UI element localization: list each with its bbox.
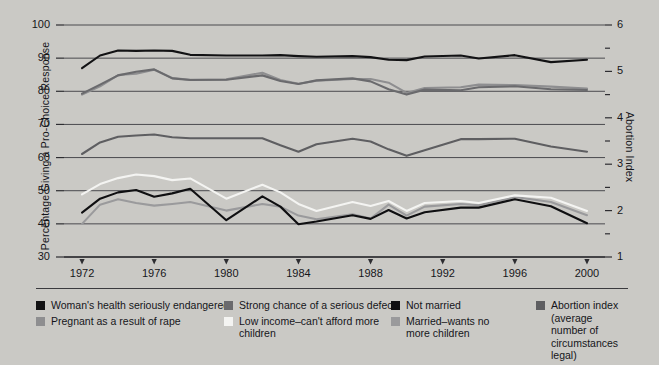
legend-item[interactable]: Low income–can't afford more children	[224, 315, 395, 340]
legend-color-swatch	[224, 317, 233, 326]
legend-column: Woman's health seriously endangeredPregn…	[36, 299, 229, 330]
y-axis-right-title: Abortion Index	[624, 87, 636, 207]
x-axis-tick-label: 1984	[271, 267, 325, 279]
legend-item-label: Married–wants no more children	[406, 315, 489, 340]
tick-marker-x	[79, 259, 84, 265]
legend-color-swatch	[391, 317, 400, 326]
y-axis-left-tick-label: 80	[20, 84, 50, 96]
x-axis-tick-label: 1976	[127, 267, 181, 279]
legend-item[interactable]: Pregnant as a result of rape	[36, 315, 229, 328]
legend-column: Abortion index (average number of circum…	[536, 299, 628, 365]
legend-item-label: Not married	[406, 299, 461, 312]
y-axis-right-tick-label: 5	[617, 64, 643, 76]
legend-color-swatch	[36, 317, 45, 326]
legend-color-swatch	[391, 301, 400, 310]
legend-color-swatch	[36, 301, 45, 310]
x-axis-tick-label: 1992	[416, 267, 470, 279]
legend-item[interactable]: Abortion index (average number of circum…	[536, 299, 628, 362]
y-axis-right-tick-label: 1	[617, 250, 643, 262]
y-axis-left-tick-label: 30	[20, 250, 50, 262]
legend-item[interactable]: Woman's health seriously endangered	[36, 299, 229, 312]
chart-legend: Woman's health seriously endangeredPregn…	[36, 288, 628, 354]
y-axis-right-tick-label: 6	[617, 18, 643, 30]
y-axis-left-tick-label: 70	[20, 117, 50, 129]
series-line	[82, 135, 587, 156]
legend-divider	[36, 288, 628, 289]
legend-color-swatch	[536, 301, 545, 310]
legend-column: Strong chance of a serious defectLow inc…	[224, 299, 395, 343]
x-axis-tick-label: 2000	[560, 267, 614, 279]
legend-item-label: Low income–can't afford more children	[239, 315, 379, 340]
x-axis-tick-label: 1996	[488, 267, 542, 279]
x-axis-tick-label: 1988	[344, 267, 398, 279]
tick-marker-x	[512, 259, 517, 265]
series-line	[82, 51, 587, 69]
y-axis-left-tick-label: 90	[20, 51, 50, 63]
y-axis-left-tick-label: 40	[20, 217, 50, 229]
legend-color-swatch	[224, 301, 233, 310]
tick-marker-x	[440, 259, 445, 265]
y-axis-right-tick-label: 3	[617, 157, 643, 169]
legend-item-label: Pregnant as a result of rape	[51, 315, 181, 328]
tick-marker-x	[152, 259, 157, 265]
tick-marker-x	[584, 259, 589, 265]
x-axis-tick-label: 1972	[55, 267, 109, 279]
y-axis-right-tick-label: 4	[617, 111, 643, 123]
y-axis-left-tick-label: 50	[20, 184, 50, 196]
legend-item[interactable]: Not married	[391, 299, 489, 312]
legend-item-label: Abortion index (average number of circum…	[551, 299, 628, 362]
y-axis-left-tick-label: 60	[20, 151, 50, 163]
legend-item[interactable]: Married–wants no more children	[391, 315, 489, 340]
legend-item[interactable]: Strong chance of a serious defect	[224, 299, 395, 312]
x-axis-tick-label: 1980	[199, 267, 253, 279]
tick-marker-x	[368, 259, 373, 265]
legend-item-label: Woman's health seriously endangered	[51, 299, 229, 312]
y-axis-right-tick-label: 2	[617, 204, 643, 216]
legend-column: Not marriedMarried–wants no more childre…	[391, 299, 489, 343]
legend-item-label: Strong chance of a serious defect	[239, 299, 395, 312]
tick-marker-x	[224, 259, 229, 265]
tick-marker-x	[296, 259, 301, 265]
y-axis-left-tick-label: 100	[20, 18, 50, 30]
